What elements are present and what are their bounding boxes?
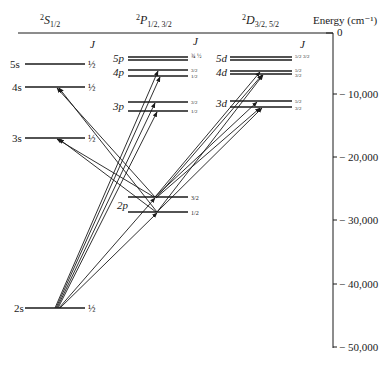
- level-3s: 3s: [12, 132, 22, 144]
- svg-text:5/2: 5/2: [295, 99, 302, 104]
- tick-30000: − 30,000: [339, 214, 379, 226]
- energy-axis-label: Energy (cm⁻¹): [313, 14, 378, 27]
- j-values-p: 3/2 1/2 3/2 1/2 3/2 1/2 ¾ ½: [191, 53, 202, 216]
- level-5p: 5p: [113, 52, 125, 64]
- svg-text:1/2: 1/2: [191, 109, 198, 114]
- svg-text:½: ½: [197, 53, 202, 59]
- level-2p: 2p: [117, 199, 129, 211]
- svg-text:3/2: 3/2: [191, 68, 198, 73]
- j-values-d: 5/2 3/2 5/2 3/2 5/2 3/2: [295, 54, 310, 111]
- tick-40000: − 40,000: [339, 278, 379, 290]
- tick-0: 0: [337, 26, 343, 38]
- svg-text:¾: ¾: [191, 53, 196, 59]
- svg-text:1/2: 1/2: [191, 210, 199, 216]
- level-4p: 4p: [113, 66, 125, 78]
- j-2s: ½: [88, 303, 96, 314]
- level-4d: 4d: [216, 66, 228, 78]
- svg-text:3/2: 3/2: [295, 106, 302, 111]
- energy-axis: 0 − 10,000 − 20,000 − 30,000 − 40,000 − …: [326, 26, 379, 353]
- tick-10000: − 10,000: [339, 88, 379, 100]
- j-label-d: J: [300, 38, 306, 50]
- j-4s: ½: [88, 82, 96, 93]
- svg-text:3/2: 3/2: [303, 54, 310, 59]
- tick-20000: − 20,000: [339, 151, 379, 163]
- tick-50000: − 50,000: [339, 341, 379, 353]
- svg-text:3/2: 3/2: [295, 73, 302, 78]
- svg-text:5/2: 5/2: [295, 54, 302, 59]
- level-4s: 4s: [12, 81, 22, 93]
- p-levels: [128, 57, 188, 212]
- level-5s: 5s: [10, 58, 20, 70]
- energy-level-diagram: 2S1/2 2P1/2, 3/2 2D3/2, 5/2 Energy (cm⁻¹…: [0, 0, 387, 366]
- d-levels: [230, 57, 292, 107]
- level-3d: 3d: [215, 97, 228, 109]
- header-p: 2P1/2, 3/2: [136, 13, 172, 29]
- j-5s: ½: [88, 59, 96, 70]
- j-label-s: J: [90, 38, 96, 50]
- svg-text:1/2: 1/2: [191, 74, 198, 79]
- svg-text:3/2: 3/2: [191, 100, 198, 105]
- j-3s: ½: [88, 133, 96, 144]
- level-2s: 2s: [14, 302, 24, 314]
- header-s: 2S1/2: [40, 13, 60, 29]
- header-d: 2D3/2, 5/2: [242, 13, 279, 29]
- j-label-p: J: [193, 35, 199, 47]
- level-5d: 5d: [216, 52, 228, 64]
- level-3p: 3p: [112, 100, 125, 112]
- svg-text:3/2: 3/2: [191, 195, 199, 201]
